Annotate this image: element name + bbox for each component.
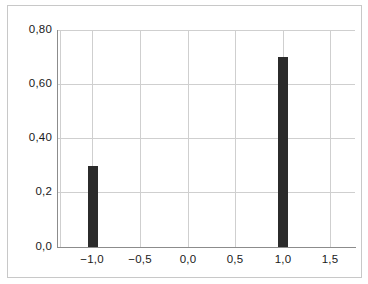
bar-x-minus-1: [88, 166, 98, 247]
gridline-v-n15: [60, 30, 61, 247]
x-tick-label-plus-15: 1,5: [322, 254, 339, 266]
x-tick-label-plus-1: 1,0: [275, 254, 292, 266]
bar-x-plus-1: [278, 57, 288, 247]
x-axis-spine: [57, 247, 356, 248]
gridline-v-00: [188, 30, 189, 247]
chart-figure: 0,80 0,60 0,40 0,2 0,0 −1,0 −0,5 0,0 0,5…: [0, 0, 368, 284]
gridline-h-060: [57, 84, 355, 85]
gridline-v-05: [235, 30, 236, 247]
y-tick-label-0: 0,80: [29, 24, 52, 36]
gridline-h-020: [57, 192, 355, 193]
gridline-h-040: [57, 138, 355, 139]
y-tick-label-2: 0,40: [29, 132, 52, 144]
y-axis-spine: [57, 30, 58, 248]
gridline-v-n05: [140, 30, 141, 247]
gridline-h-080: [57, 30, 355, 31]
x-tick-label-plus-05: 0,5: [227, 254, 244, 266]
y-tick-label-4: 0,0: [35, 241, 52, 253]
x-tick-label-zero: 0,0: [180, 254, 197, 266]
x-tick-label-minus-05: −0,5: [128, 254, 152, 266]
y-tick-label-3: 0,2: [35, 186, 52, 198]
y-tick-label-1: 0,60: [29, 78, 52, 90]
gridline-v-15: [330, 30, 331, 247]
x-tick-label-minus-1: −1,0: [80, 254, 104, 266]
y-axis-tick-labels: 0,80 0,60 0,40 0,2 0,0: [0, 0, 52, 284]
plot-area: [57, 30, 355, 247]
